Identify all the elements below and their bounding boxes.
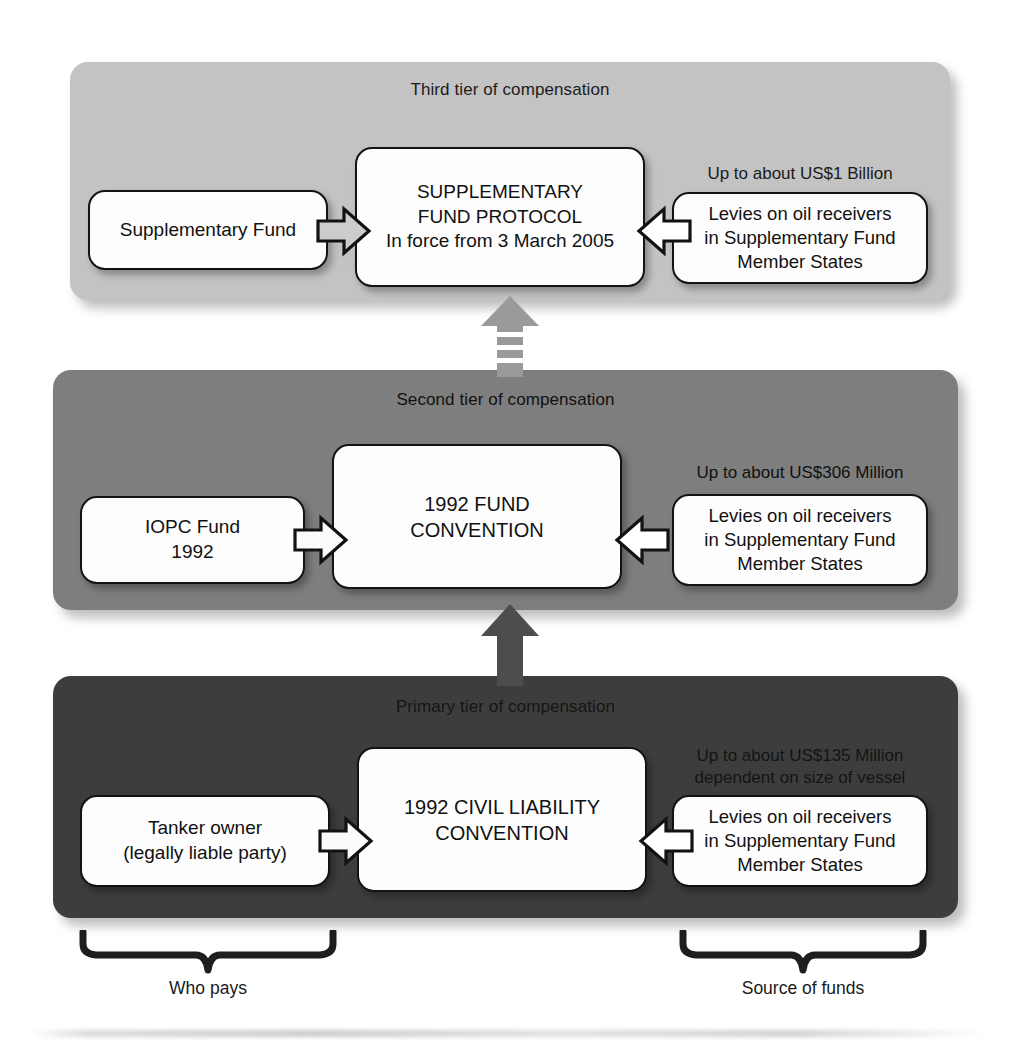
node-levies-third-text: Levies on oil receivers in Supplementary… <box>694 202 905 274</box>
caption-second-tier-amount: Up to about US$306 Million <box>650 462 950 484</box>
flow-arrow-right-to-center-second <box>614 512 670 568</box>
scan-artifact <box>30 1030 988 1037</box>
connector-tier2-to-tier3 <box>473 296 547 378</box>
connector-tier1-to-tier2 <box>473 604 547 686</box>
node-levies-primary-text: Levies on oil receivers in Supplementary… <box>694 805 905 877</box>
flow-arrow-left-to-center-second <box>293 512 349 568</box>
node-supplementary-fund-protocol[interactable]: SUPPLEMENTARY FUND PROTOCOL In force fro… <box>355 147 645 287</box>
brace-label-who-pays: Who pays <box>78 978 338 999</box>
node-1992-civil-liability-convention[interactable]: 1992 CIVIL LIABILITY CONVENTION <box>357 747 647 892</box>
flow-arrow-right-to-center-primary <box>638 813 694 869</box>
node-tanker-owner[interactable]: Tanker owner (legally liable party) <box>80 795 330 887</box>
brace-source-of-funds <box>678 930 928 980</box>
node-1992-civil-liability-convention-text: 1992 CIVIL LIABILITY CONVENTION <box>394 794 610 846</box>
node-supplementary-fund-protocol-text: SUPPLEMENTARY FUND PROTOCOL In force fro… <box>376 180 624 254</box>
node-tanker-owner-text: Tanker owner (legally liable party) <box>113 816 297 865</box>
node-levies-second-text: Levies on oil receivers in Supplementary… <box>694 504 905 576</box>
flow-arrow-right-to-center-third <box>636 203 692 259</box>
node-supplementary-fund-text: Supplementary Fund <box>110 218 306 243</box>
node-1992-fund-convention[interactable]: 1992 FUND CONVENTION <box>332 444 622 589</box>
node-1992-fund-convention-text: 1992 FUND CONVENTION <box>400 491 553 543</box>
node-iopc-fund-1992-text: IOPC Fund 1992 <box>135 515 250 564</box>
tier-title-second: Second tier of compensation <box>53 390 958 410</box>
caption-third-tier-amount: Up to about US$1 Billion <box>670 163 930 185</box>
node-supplementary-fund[interactable]: Supplementary Fund <box>88 190 328 270</box>
node-levies-primary[interactable]: Levies on oil receivers in Supplementary… <box>672 795 928 887</box>
node-levies-third[interactable]: Levies on oil receivers in Supplementary… <box>672 192 928 284</box>
node-iopc-fund-1992[interactable]: IOPC Fund 1992 <box>80 496 305 584</box>
flow-arrow-left-to-center-primary <box>318 813 374 869</box>
brace-label-source-of-funds: Source of funds <box>678 978 928 999</box>
tier-title-primary: Primary tier of compensation <box>53 697 958 717</box>
tier-title-third: Third tier of compensation <box>70 80 950 100</box>
diagram-canvas: Third tier of compensation Supplementary… <box>0 0 1010 1050</box>
caption-primary-tier-amount: Up to about US$135 Million dependent on … <box>640 745 960 790</box>
flow-arrow-left-to-center-third <box>316 203 372 259</box>
node-levies-second[interactable]: Levies on oil receivers in Supplementary… <box>672 494 928 586</box>
brace-who-pays <box>78 930 338 980</box>
